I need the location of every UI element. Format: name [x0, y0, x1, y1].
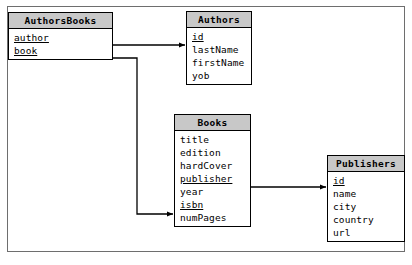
field-authors-lastname[interactable]: lastName	[187, 43, 251, 56]
field-label: yob	[192, 70, 209, 81]
entity-title-books: Books	[175, 115, 250, 131]
field-label: country	[333, 214, 374, 225]
field-books-hardcover[interactable]: hardCover	[175, 159, 250, 172]
field-authors-firstname[interactable]: firstName	[187, 56, 251, 69]
entity-table-publishers[interactable]: Publishers id name city country url	[327, 155, 405, 242]
entity-field-list-authors: id lastName firstName yob	[187, 28, 251, 84]
field-label: id	[192, 31, 204, 42]
entity-title-authorsbooks: AuthorsBooks	[9, 13, 112, 29]
entity-title-publishers: Publishers	[328, 156, 404, 172]
field-label: lastName	[192, 44, 239, 55]
field-label: year	[180, 186, 203, 197]
field-books-year[interactable]: year	[175, 185, 250, 198]
field-label: title	[180, 134, 209, 145]
field-publishers-name[interactable]: name	[328, 187, 404, 200]
field-publishers-city[interactable]: city	[328, 200, 404, 213]
er-diagram-canvas: AuthorsBooks author book Authors id last…	[0, 0, 412, 265]
field-authorsbooks-author[interactable]: author	[9, 31, 112, 44]
field-books-title[interactable]: title	[175, 133, 250, 146]
field-label: firstName	[192, 57, 244, 68]
field-label: hardCover	[180, 160, 232, 171]
entity-table-books[interactable]: Books title edition hardCover publisher …	[174, 114, 251, 227]
field-authors-id[interactable]: id	[187, 30, 251, 43]
field-books-isbn[interactable]: isbn	[175, 198, 250, 211]
field-label: url	[333, 227, 350, 238]
field-label: book	[14, 45, 37, 56]
field-label: name	[333, 188, 356, 199]
field-publishers-id[interactable]: id	[328, 174, 404, 187]
field-label: numPages	[180, 212, 227, 223]
field-label: author	[14, 32, 49, 43]
field-books-numpages[interactable]: numPages	[175, 211, 250, 224]
field-publishers-url[interactable]: url	[328, 226, 404, 239]
entity-table-authors[interactable]: Authors id lastName firstName yob	[186, 11, 252, 85]
entity-title-authors: Authors	[187, 12, 251, 28]
entity-table-authorsbooks[interactable]: AuthorsBooks author book	[8, 12, 113, 60]
field-label: isbn	[180, 199, 203, 210]
field-label: edition	[180, 147, 221, 158]
field-books-edition[interactable]: edition	[175, 146, 250, 159]
field-label: publisher	[180, 173, 232, 184]
entity-field-list-books: title edition hardCover publisher year i…	[175, 131, 250, 226]
entity-field-list-publishers: id name city country url	[328, 172, 404, 241]
field-authors-yob[interactable]: yob	[187, 69, 251, 82]
field-publishers-country[interactable]: country	[328, 213, 404, 226]
field-authorsbooks-book[interactable]: book	[9, 44, 112, 57]
field-books-publisher[interactable]: publisher	[175, 172, 250, 185]
field-label: id	[333, 175, 345, 186]
entity-field-list-authorsbooks: author book	[9, 29, 112, 59]
field-label: city	[333, 201, 356, 212]
